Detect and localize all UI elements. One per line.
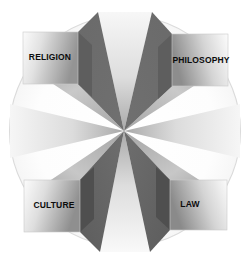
law-front-face [170, 180, 227, 230]
diagram-graphic [0, 0, 251, 260]
culture-front-face [24, 180, 80, 232]
node-religion[interactable] [23, 32, 92, 97]
diagram-canvas: RELIGION PHILOSOPHY CULTURE LAW [0, 0, 251, 260]
philosophy-front-face [172, 34, 228, 86]
religion-front-face [23, 32, 78, 84]
